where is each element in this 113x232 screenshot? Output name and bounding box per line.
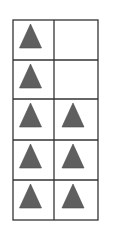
triangle-icon [62,144,84,168]
triangle-icon [20,64,42,88]
triangle-icon [20,184,42,208]
triangle-icon [20,144,42,168]
tally-grid [0,0,113,232]
triangle-icon [62,184,84,208]
triangle-icon [20,24,42,48]
triangle-icon [62,103,84,127]
triangle-icon [20,103,42,127]
